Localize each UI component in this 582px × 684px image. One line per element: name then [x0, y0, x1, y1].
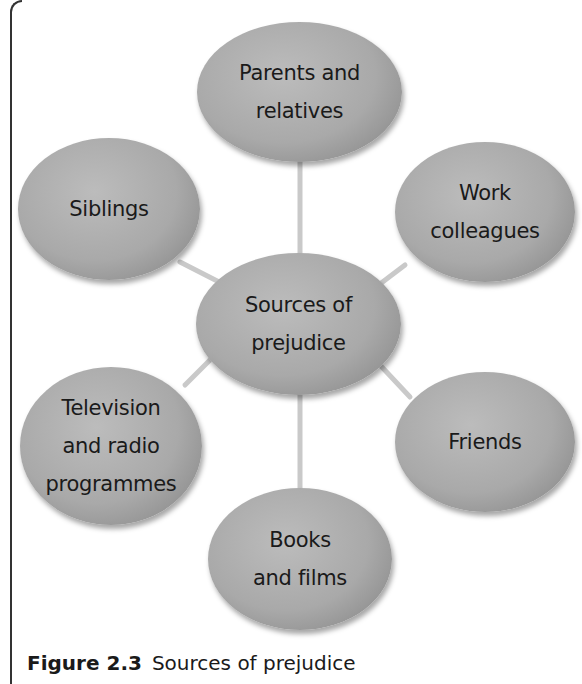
link-friends — [380, 365, 410, 397]
node-work-colleagues: Work colleagues — [395, 142, 575, 282]
figure-title: Sources of prejudice — [152, 651, 356, 675]
node-label: Siblings — [69, 190, 148, 228]
node-siblings: Siblings — [18, 138, 200, 280]
node-books-and-films: Books and films — [208, 488, 392, 630]
node-label: Television and radio programmes — [46, 389, 177, 503]
node-label: Books and films — [253, 521, 347, 597]
node-label: Parents and relatives — [239, 54, 360, 130]
node-sources-of-prejudice-center: Sources of prejudice — [196, 253, 401, 395]
node-label: Friends — [448, 423, 521, 461]
node-television-and-radio: Television and radio programmes — [20, 367, 202, 525]
node-friends: Friends — [395, 372, 575, 512]
figure-caption: Figure 2.3Sources of prejudice — [27, 651, 356, 675]
link-tv — [185, 360, 210, 385]
figure-number: Figure 2.3 — [27, 651, 142, 675]
node-label: Work colleagues — [430, 174, 539, 250]
node-label: Sources of prejudice — [245, 286, 352, 362]
node-parents-and-relatives: Parents and relatives — [197, 22, 402, 162]
